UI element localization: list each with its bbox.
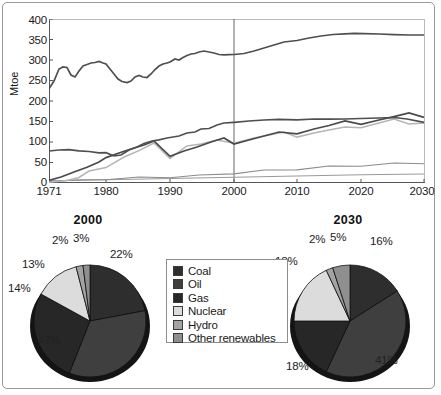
legend-item-oil: Oil — [173, 278, 287, 291]
series-oil — [49, 33, 424, 88]
y-tick: 400 — [7, 15, 47, 25]
legend-swatch-nuclear — [173, 306, 183, 316]
pie-2030-label-coal: 16% — [370, 235, 392, 247]
y-tick: 100 — [7, 136, 47, 146]
x-tick: 2030 — [397, 186, 441, 197]
x-tick: 2020 — [336, 186, 386, 197]
pie-2000-label-gas: 14% — [8, 282, 30, 294]
series-gas — [49, 113, 424, 181]
legend-swatch-other-renewables — [173, 333, 183, 343]
y-tick: 50 — [7, 157, 47, 167]
y-tick: 350 — [7, 35, 47, 45]
legend-item-hydro: Hydro — [173, 318, 287, 331]
x-tick: 2000 — [209, 186, 259, 197]
legend-item-coal: Coal — [173, 264, 287, 277]
line-series-svg — [49, 19, 425, 183]
y-tick: 200 — [7, 96, 47, 106]
chart-legend: Coal Oil Gas Nuclear Hydro Other renewab… — [166, 259, 288, 343]
x-tick: 1990 — [145, 186, 195, 197]
legend-item-nuclear: Nuclear — [173, 305, 287, 318]
series-nuclear — [49, 119, 424, 182]
legend-label-nuclear: Nuclear — [188, 305, 226, 317]
pie-2030-label-other: 5% — [330, 231, 346, 243]
pie-2030-label-oil: 41% — [375, 354, 397, 366]
legend-label-oil: Oil — [188, 278, 201, 290]
legend-label-coal: Coal — [188, 265, 211, 277]
y-tick-marks — [49, 19, 53, 163]
legend-label-other-renewables: Other renewables — [188, 332, 276, 344]
pie-2000-label-coal: 22% — [110, 248, 132, 260]
pie-2000-label-nuclear: 13% — [22, 258, 44, 270]
pie-2000-slices — [34, 265, 146, 377]
legend-label-hydro: Hydro — [188, 319, 218, 331]
x-tick: 2010 — [272, 186, 322, 197]
series-other-renewables — [49, 163, 424, 181]
x-tick: 1980 — [81, 186, 131, 197]
pie-2000-label-hydro: 2% — [52, 234, 68, 246]
pie-2030-label-hydro: 2% — [309, 233, 325, 245]
legend-item-other-renewables: Other renewables — [173, 332, 287, 345]
pie-2030-label-gas: 18% — [286, 360, 308, 372]
pie-2000-label-oil: 47% — [38, 334, 60, 346]
legend-label-gas: Gas — [188, 292, 209, 304]
legend-item-gas: Gas — [173, 291, 287, 304]
legend-swatch-gas — [173, 293, 183, 303]
line-chart: Mtoe 400 350 300 250 200 150 100 50 0 — [3, 3, 441, 203]
y-tick: 250 — [7, 75, 47, 85]
y-tick: 150 — [7, 116, 47, 126]
y-axis-ticks: 400 350 300 250 200 150 100 50 0 — [3, 3, 47, 193]
legend-swatch-coal — [173, 266, 183, 276]
pie-2000-label-other: 3% — [73, 232, 89, 244]
x-tick: 1971 — [24, 186, 74, 197]
chart-frame: Mtoe 400 350 300 250 200 150 100 50 0 — [2, 2, 435, 389]
y-tick: 300 — [7, 55, 47, 65]
legend-swatch-oil — [173, 279, 183, 289]
legend-swatch-hydro — [173, 320, 183, 330]
